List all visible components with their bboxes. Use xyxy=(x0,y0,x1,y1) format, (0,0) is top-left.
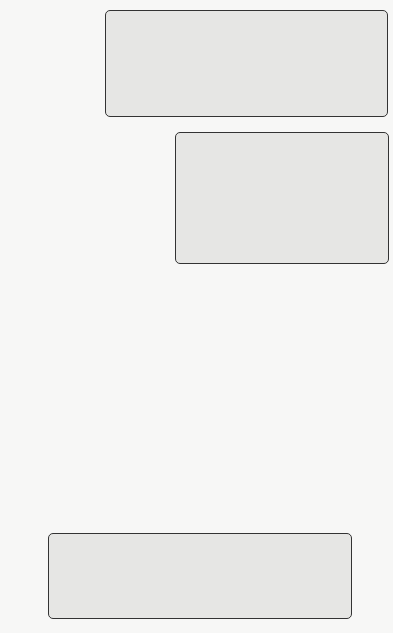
callout-hydrogen-bonding-effect xyxy=(105,10,388,117)
callout-dashed-line-prediction xyxy=(48,533,352,619)
callout-periodic-group-lines xyxy=(175,132,389,264)
